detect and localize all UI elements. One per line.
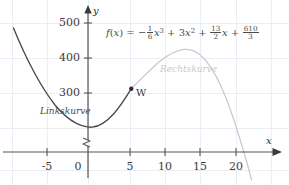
formula-x-linear: x bbox=[222, 27, 228, 38]
inflection-point-marker bbox=[129, 87, 133, 91]
formula-coeff-cubic-fraction: 16 bbox=[147, 25, 154, 41]
formula-constant-denominator: 3 bbox=[243, 33, 259, 40]
annotation-linkskurve: Linkskurve bbox=[40, 107, 91, 116]
inflection-point-label: W bbox=[136, 88, 146, 98]
formula-coeff-linear-fraction: 132 bbox=[210, 25, 221, 41]
y-axis-break-zigzag bbox=[83, 138, 90, 147]
xtick-label-5: 5 bbox=[120, 161, 140, 172]
formula-exponent-2: 2 bbox=[191, 27, 195, 35]
ytick-label-500: 500 bbox=[48, 17, 80, 28]
x-axis-label: x bbox=[266, 136, 272, 146]
formula-plus-2: + bbox=[198, 27, 206, 38]
y-axis-label: y bbox=[93, 6, 99, 16]
xtick-label-0: 0 bbox=[68, 161, 88, 172]
y-axis-arrowhead bbox=[84, 5, 91, 14]
x-axis-arrowhead bbox=[273, 148, 283, 156]
ytick-label-400: 400 bbox=[48, 52, 80, 63]
formula-equals: = bbox=[126, 27, 134, 38]
annotation-rechtskurve: Rechtskurve bbox=[160, 65, 217, 74]
xtick-label-20: 20 bbox=[224, 161, 248, 172]
formula-minus: − bbox=[138, 27, 146, 38]
xtick-label-10: 10 bbox=[153, 161, 177, 172]
formula-plus-3: + bbox=[231, 27, 239, 38]
xtick-label-m5: -5 bbox=[33, 161, 61, 172]
formula-exponent-3: 3 bbox=[160, 27, 164, 35]
formula-paren-close: ) bbox=[119, 27, 123, 38]
formula-coeff-linear-denominator: 2 bbox=[210, 33, 221, 40]
xtick-label-15: 15 bbox=[188, 161, 212, 172]
formula-coeff-cubic-denominator: 6 bbox=[147, 33, 154, 40]
chart-canvas: 500 400 300 -5 0 5 10 15 20 y x Linkskur… bbox=[0, 0, 289, 185]
formula-plus-1: + bbox=[167, 27, 175, 38]
formula-constant-fraction: 6103 bbox=[243, 25, 259, 41]
ytick-label-300: 300 bbox=[48, 87, 80, 98]
function-formula: f(x) = −16x3 + 3x2 + 132x + 6103 bbox=[106, 25, 259, 41]
